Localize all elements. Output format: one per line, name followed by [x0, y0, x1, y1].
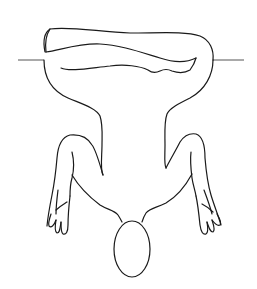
figure-drawing	[0, 0, 257, 289]
left-arm	[47, 135, 122, 226]
torso	[44, 60, 213, 175]
folded-legs	[44, 28, 213, 72]
head	[114, 221, 150, 277]
right-arm	[142, 134, 221, 225]
